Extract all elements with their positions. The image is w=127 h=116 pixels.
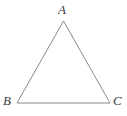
triangle-outline (17, 21, 110, 103)
vertex-label-c: C (113, 94, 122, 107)
triangle-figure: A B C (0, 0, 127, 116)
triangle-svg (0, 0, 127, 116)
vertex-label-b: B (3, 94, 11, 107)
vertex-label-a: A (58, 3, 66, 16)
